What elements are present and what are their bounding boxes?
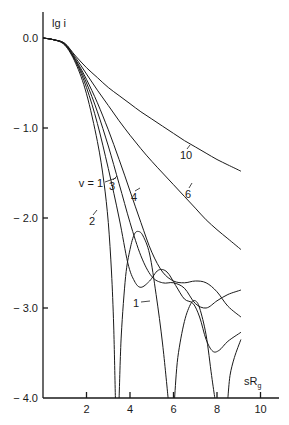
curves bbox=[43, 38, 241, 398]
curve-v-1 bbox=[43, 38, 115, 398]
curve-label: 10 bbox=[180, 149, 192, 161]
curve-v-3 bbox=[43, 38, 241, 308]
x-tick-label: 2 bbox=[83, 403, 89, 415]
curve-label: 1 bbox=[133, 297, 139, 309]
curve-label: v = 1 bbox=[79, 177, 103, 189]
y-tick-label: − 1.0 bbox=[13, 122, 38, 134]
curve-v-4 bbox=[43, 38, 241, 317]
line-chart: 0.0− 1.0− 2.0− 3.0− 4.0 246810 v = 12346… bbox=[0, 0, 289, 425]
y-tick-label: − 2.0 bbox=[13, 212, 38, 224]
x-axis-label: sRg bbox=[244, 375, 261, 390]
y-axis-label: lg i bbox=[52, 17, 66, 29]
curve-v-1 bbox=[175, 300, 215, 398]
x-tick-label: 4 bbox=[127, 403, 133, 415]
curve-v-1 bbox=[228, 340, 241, 399]
x-tick-label: 8 bbox=[214, 403, 220, 415]
curve-v-6 bbox=[43, 38, 241, 250]
label-leader-line bbox=[141, 301, 150, 302]
curve-label: 3 bbox=[109, 180, 115, 192]
curve-label: 2 bbox=[89, 215, 95, 227]
y-tick-label: − 4.0 bbox=[13, 392, 38, 404]
y-tick-label: − 3.0 bbox=[13, 302, 38, 314]
y-tick-label: 0.0 bbox=[23, 32, 38, 44]
curve-label: 6 bbox=[185, 188, 191, 200]
x-tick-label: 10 bbox=[254, 403, 266, 415]
x-tick-label: 6 bbox=[170, 403, 176, 415]
curve-label: 4 bbox=[131, 191, 137, 203]
label-leader-line bbox=[135, 188, 140, 191]
